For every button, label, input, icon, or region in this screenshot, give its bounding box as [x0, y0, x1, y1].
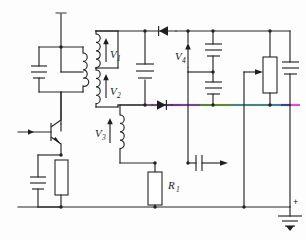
- left-vertical-branch: [118, 31, 154, 107]
- v2-sub-label: 2: [117, 91, 121, 100]
- diode-bottom: [152, 100, 172, 110]
- circuit-svg: +: [0, 0, 306, 240]
- capacitor-c-right: [282, 31, 299, 207]
- emitter-capacitor: [30, 177, 46, 189]
- npn-transistor: [18, 92, 61, 155]
- v3-arrow: [107, 118, 113, 143]
- tank-inductor: [83, 53, 89, 86]
- diode-top: [145, 26, 176, 36]
- emitter-resistor: [55, 160, 68, 207]
- capacitor-c-left: [136, 64, 154, 78]
- transformer-primary-v1: [96, 31, 100, 68]
- v4-arrow: [185, 43, 191, 68]
- voltage-labels: V 1 V 2 V 3 V 4: [95, 48, 186, 142]
- transformer-winding-v3: [120, 105, 155, 163]
- tank-circuit: [31, 45, 89, 92]
- coupling-capacitor: [188, 155, 228, 171]
- circuit-diagram: +: [0, 0, 306, 240]
- potentiometer: [244, 31, 277, 207]
- capacitor-c-lower: [205, 72, 222, 105]
- capacitor-c-upper: [205, 31, 222, 72]
- bottom-ground-rail: [18, 205, 290, 208]
- top-rail: [96, 29, 290, 32]
- v1-sub-label: 1: [117, 54, 121, 63]
- transformer-winding-v2: [96, 68, 100, 107]
- r1-sub-label: 1: [176, 185, 180, 194]
- supply-terminal-top: [56, 13, 66, 47]
- v4-sub-label: 4: [182, 56, 186, 65]
- emitter-network: [30, 153, 68, 208]
- r1-label: R: [167, 179, 175, 191]
- ground-symbol: [278, 207, 302, 231]
- resistor-r1: [148, 161, 162, 207]
- v3-sub-label: 3: [101, 133, 106, 142]
- tank-capacitor: [31, 66, 47, 78]
- ground-plus-label: +: [293, 197, 298, 207]
